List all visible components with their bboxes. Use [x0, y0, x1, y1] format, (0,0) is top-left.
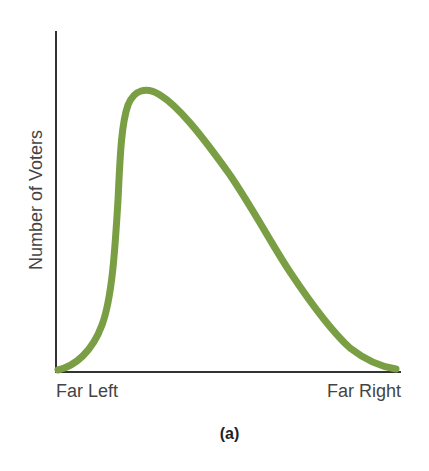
- distribution-curve: [58, 90, 396, 370]
- figure-caption: (a): [0, 425, 429, 443]
- y-axis-label: Number of Voters: [26, 130, 47, 270]
- x-tick-label-right: Far Right: [327, 381, 401, 402]
- x-tick-label-left: Far Left: [56, 381, 118, 402]
